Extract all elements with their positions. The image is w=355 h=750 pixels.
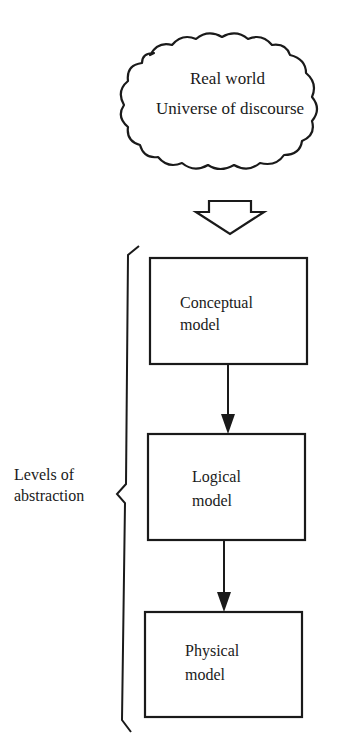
box-physical-label-line1: Physical bbox=[185, 640, 239, 661]
box-logical-label-line2: model bbox=[192, 490, 232, 511]
arrowhead-icon bbox=[221, 414, 235, 434]
arrowhead-icon bbox=[217, 592, 231, 612]
box-conceptual-label-line1: Conceptual bbox=[180, 292, 253, 313]
brace-label-line1: Levels of bbox=[14, 464, 74, 485]
curly-brace bbox=[117, 246, 139, 732]
box-physical-label-line2: model bbox=[185, 664, 225, 685]
box-logical-model bbox=[148, 434, 305, 540]
cloud-label-line1: Real world bbox=[150, 68, 305, 89]
brace-label-line2: abstraction bbox=[14, 485, 84, 506]
cloud-label-line2: Universe of discourse bbox=[130, 98, 330, 119]
hollow-down-arrow-icon bbox=[196, 201, 264, 234]
box-logical-label-line1: Logical bbox=[192, 466, 241, 487]
box-conceptual-label-line2: model bbox=[180, 314, 220, 335]
